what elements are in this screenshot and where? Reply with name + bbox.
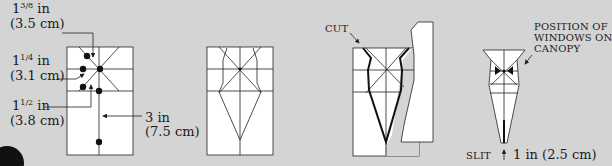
panel-2-fold-lines	[207, 47, 273, 155]
diagram-canvas	[0, 0, 612, 166]
panel-1-marked-paper	[44, 33, 142, 155]
panel-3-cut-outline	[350, 22, 433, 156]
windows-arrow-icon	[525, 55, 532, 64]
